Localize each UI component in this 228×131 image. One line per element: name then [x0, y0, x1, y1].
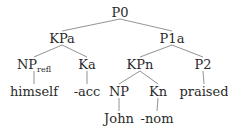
- edge-KPa-Ka: [62, 45, 87, 57]
- edge-P0-P1a: [120, 19, 172, 31]
- node-label: KPn: [127, 57, 154, 72]
- edge-Kn-nom: [157, 98, 158, 111]
- node-kpn: KPn: [127, 58, 154, 71]
- node-label: John: [104, 111, 134, 126]
- node-p2: P2: [194, 58, 211, 71]
- node-label: -acc: [74, 84, 101, 99]
- node-ka: Ka: [78, 58, 95, 71]
- node-label: Kn: [149, 84, 167, 99]
- syntax-tree-diagram: P0KPaP1aNPreflKaKPnP2himself-accNPKnprai…: [0, 0, 228, 131]
- node-p0: P0: [111, 6, 128, 19]
- node-label: himself: [10, 84, 58, 99]
- node-acc: -acc: [74, 85, 101, 98]
- node-label: KPa: [49, 31, 75, 46]
- node-np: NP: [109, 85, 129, 98]
- node-john: John: [104, 112, 134, 125]
- node-label: -nom: [141, 111, 174, 126]
- edge-P1a-KPn: [140, 45, 172, 57]
- edge-KPn-Kn: [140, 71, 158, 84]
- node-kn: Kn: [149, 85, 167, 98]
- node-kpa: KPa: [49, 32, 75, 45]
- node-himself: himself: [10, 85, 58, 98]
- node-label: P0: [111, 5, 128, 20]
- node-label: praised: [179, 84, 228, 99]
- node-nom: -nom: [141, 112, 174, 125]
- edge-KPa-NPrefl: [34, 45, 62, 57]
- edge-KPn-NP: [119, 71, 140, 84]
- node-nprefl: NPrefl: [17, 58, 51, 71]
- node-label: NP: [17, 57, 37, 72]
- edge-P2-praised: [203, 71, 204, 84]
- node-praised: praised: [179, 85, 228, 98]
- node-label: NP: [109, 84, 129, 99]
- node-label: P2: [194, 57, 211, 72]
- node-p1a: P1a: [160, 32, 185, 45]
- node-label: P1a: [160, 31, 185, 46]
- node-subscript: refl: [37, 65, 51, 74]
- edge-P0-KPa: [62, 19, 120, 31]
- edge-P1a-P2: [172, 45, 203, 57]
- node-label: Ka: [78, 57, 95, 72]
